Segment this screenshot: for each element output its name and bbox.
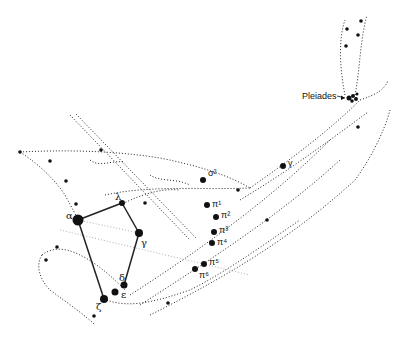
label-pi3: π³	[219, 225, 228, 235]
star-pi1	[204, 202, 210, 208]
star-gamma-left	[135, 229, 143, 237]
constellation-lines	[78, 203, 139, 299]
label-pi1: π¹	[212, 199, 221, 209]
label-pi5: π⁵	[209, 257, 219, 267]
star-gamma-right	[280, 163, 286, 169]
label-pi6: π⁶	[199, 270, 209, 280]
label-alpha: α	[66, 210, 73, 221]
label-delta: δ	[119, 272, 125, 283]
star-sigma2	[200, 177, 206, 183]
star-alpha	[73, 215, 84, 226]
label-gamma-left: γ	[141, 237, 147, 248]
star-pi6	[192, 266, 198, 272]
label-pi2: π²	[221, 210, 230, 220]
star-pi5	[201, 261, 207, 267]
label-pi4: π⁴	[217, 237, 227, 247]
star-pi2	[213, 214, 219, 220]
label-sigma2: σ²	[208, 168, 217, 178]
star-pi3	[211, 229, 217, 235]
label-gamma-right: γ	[288, 158, 293, 168]
label-epsilon: ε	[121, 289, 126, 300]
stars	[18, 19, 363, 318]
star-chart-svg: α λ γ δ ε ζ σ² γ π¹ π² π³ π⁴ π⁵ π⁶ Pleia…	[0, 0, 393, 337]
label-pleiades: Pleiades	[302, 91, 337, 101]
star-chart-diagram: α λ γ δ ε ζ σ² γ π¹ π² π³ π⁴ π⁵ π⁶ Pleia…	[0, 0, 393, 337]
star-epsilon	[112, 289, 119, 296]
label-zeta: ζ	[96, 301, 102, 312]
star-pi4	[209, 240, 215, 246]
label-lambda: λ	[115, 191, 122, 202]
